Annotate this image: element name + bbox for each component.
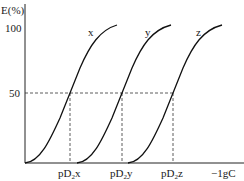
y-tick-50: 50 xyxy=(9,87,21,99)
curve-z xyxy=(128,25,222,163)
x-tick-pd2x: pD2x xyxy=(58,167,81,181)
curve-label-z: z xyxy=(196,26,201,38)
x-axis-label: −1gC xyxy=(211,167,236,179)
x-tick-pd2z: pD2z xyxy=(161,167,183,181)
svg-text:pD2z: pD2z xyxy=(161,167,183,181)
x-tick-pd2y: pD2y xyxy=(110,167,133,181)
extraction-curve-chart: E(%) 100 50 x y z pD2x pD2y pD2z −1gC xyxy=(0,0,244,181)
curve-x xyxy=(25,25,117,163)
y-tick-100: 100 xyxy=(5,22,22,34)
svg-text:pD2x: pD2x xyxy=(58,167,81,181)
curve-label-y: y xyxy=(145,26,151,38)
y-axis-label: E(%) xyxy=(1,4,25,17)
svg-text:pD2y: pD2y xyxy=(110,167,133,181)
curve-label-x: x xyxy=(88,26,94,38)
